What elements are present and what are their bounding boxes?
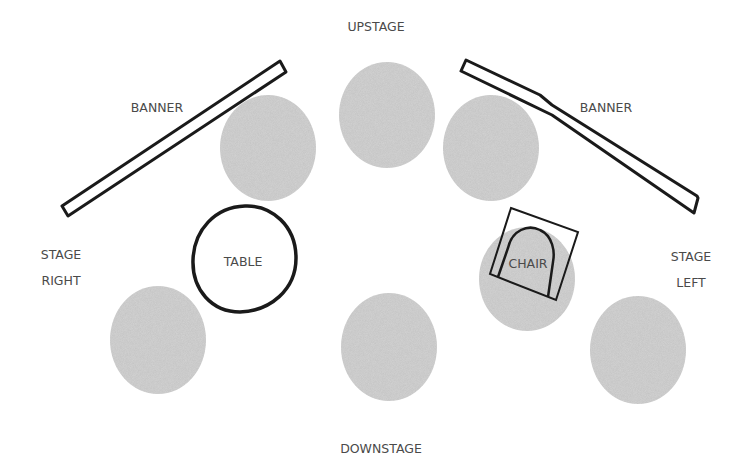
chair-spot [479,227,575,331]
banner-right-label: BANNER [580,100,633,115]
upstage-right-spot [220,95,316,201]
stage-left-label-line1: STAGE [671,249,712,264]
table-prop[interactable]: TABLE [193,206,296,312]
downstage-left-spot [590,296,686,404]
stage-left-label-line2: LEFT [676,275,706,290]
stage-right-label-line1: STAGE [41,247,82,262]
upstage-label: UPSTAGE [347,19,404,34]
downstage-label: DOWNSTAGE [340,441,422,456]
downstage-center-spot [341,293,437,401]
stage-diagram: TABLE CHAIR UPSTAGE DOWNSTAGE BANNER BAN… [0,0,752,466]
chair-label: CHAIR [508,256,547,271]
downstage-right-spot [110,286,206,394]
table-label: TABLE [223,254,263,269]
upstage-center-spot [339,62,435,168]
banner-left-label: BANNER [131,100,184,115]
upstage-left-spot [443,95,539,201]
stage-right-label-line2: RIGHT [41,273,80,288]
